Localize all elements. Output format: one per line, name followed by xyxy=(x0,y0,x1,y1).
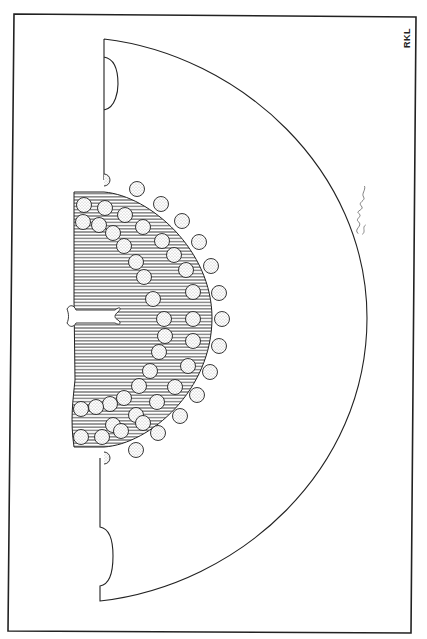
perforation-circle xyxy=(167,248,182,263)
perforation-circle xyxy=(129,255,144,270)
perforation-circle xyxy=(117,391,132,406)
perforation-circle xyxy=(146,292,161,307)
perforation-circle xyxy=(118,208,133,223)
perforation-circle xyxy=(158,329,173,344)
perforation-circle xyxy=(129,443,144,458)
perforation-circle xyxy=(98,201,113,216)
perforation-circle xyxy=(114,424,129,439)
perforation-circle xyxy=(192,235,207,250)
perforation-circle xyxy=(76,215,91,230)
perforation-circle xyxy=(190,388,205,403)
perforation-circle xyxy=(215,312,230,327)
axe-drawing xyxy=(0,0,427,639)
perforation-circle xyxy=(154,197,169,212)
perforation-circle xyxy=(143,364,158,379)
perforation-circle xyxy=(74,430,89,445)
perforation-circle xyxy=(89,400,104,415)
perforation-circle xyxy=(95,430,110,445)
perforation-circle xyxy=(186,334,201,349)
perforation-circle xyxy=(186,312,201,327)
perforation-circle xyxy=(157,312,172,327)
perforation-circle xyxy=(106,226,121,241)
perforation-circle xyxy=(74,402,89,417)
perforation-circle xyxy=(103,397,118,412)
perforation-circle xyxy=(117,239,132,254)
edge-half-perforation xyxy=(104,452,110,464)
perforation-circle xyxy=(168,380,183,395)
perforation-circle xyxy=(152,345,167,360)
perforation-circle xyxy=(204,259,219,274)
perforation-circle xyxy=(212,339,227,354)
perforation-circle xyxy=(77,198,92,213)
initials-label: RKL xyxy=(402,18,416,48)
perforation-circle xyxy=(179,263,194,278)
perforation-circle xyxy=(175,214,190,229)
perforation-circle xyxy=(130,182,145,197)
perforation-circle xyxy=(155,234,170,249)
perforation-circle xyxy=(150,395,165,410)
perforation-circle xyxy=(186,285,201,300)
perforation-circle xyxy=(151,426,166,441)
perforation-circle xyxy=(173,409,188,424)
perforation-circle xyxy=(203,365,218,380)
perforation-circle xyxy=(136,416,151,431)
perforation-circle xyxy=(92,218,107,233)
perforation-circle xyxy=(212,286,227,301)
edge-half-perforation xyxy=(104,174,110,186)
perforation-circle xyxy=(132,379,147,394)
perforation-circle xyxy=(181,359,196,374)
perforation-circle xyxy=(136,220,151,235)
perforation-circle xyxy=(137,270,152,285)
signature xyxy=(354,186,372,235)
